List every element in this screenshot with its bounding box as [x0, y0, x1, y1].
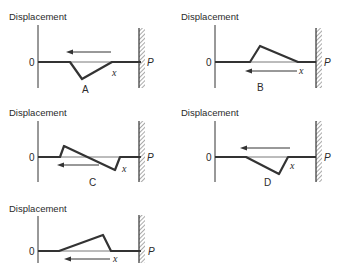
- zero-label: 0: [206, 152, 212, 163]
- wall-label: P: [147, 152, 154, 163]
- pulse-shape: [215, 46, 316, 62]
- panel-b: Displacement 0 P x B: [181, 11, 331, 93]
- panel-a: Displacement 0 P x A: [9, 11, 154, 95]
- wall-label: P: [148, 246, 155, 257]
- wall-label: P: [324, 152, 331, 163]
- zero-label: 0: [206, 57, 212, 68]
- position-label: x: [112, 253, 118, 263]
- wall-label: P: [324, 57, 331, 68]
- y-axis-label: Displacement: [181, 11, 239, 22]
- panel-caption: A: [82, 84, 89, 95]
- panel-caption: C: [89, 177, 96, 188]
- y-axis-label: Displacement: [181, 107, 239, 118]
- position-label: x: [121, 163, 127, 174]
- zero-label: 0: [29, 152, 35, 163]
- pulse-reflection-diagram: Displacement 0 P x A Displacement 0 P x …: [0, 0, 348, 263]
- wall-hatch: [316, 28, 322, 88]
- wall-hatch: [139, 121, 145, 182]
- arrow-left-icon: [240, 146, 247, 151]
- y-axis-label: Displacement: [9, 203, 67, 214]
- arrow-left-icon: [57, 163, 64, 168]
- wall-hatch: [316, 121, 322, 182]
- position-label: x: [298, 65, 304, 76]
- panel-e: Displacement 0 P x: [9, 203, 155, 263]
- panel-c: Displacement 0 P x C: [9, 107, 154, 188]
- position-label: x: [289, 160, 295, 171]
- panel-caption: B: [257, 82, 264, 93]
- panel-caption: D: [264, 177, 271, 188]
- y-axis-label: Displacement: [9, 107, 67, 118]
- arrow-left-icon: [245, 69, 252, 74]
- position-label: x: [111, 67, 117, 78]
- y-axis-label: Displacement: [9, 11, 67, 22]
- arrow-left-icon: [66, 50, 73, 55]
- pulse-shape: [215, 157, 316, 174]
- wall-hatch: [139, 215, 145, 263]
- zero-label: 0: [29, 57, 35, 68]
- zero-label: 0: [29, 246, 35, 257]
- wall-hatch: [139, 28, 145, 88]
- wall-label: P: [147, 57, 154, 68]
- panel-d: Displacement 0 P x D: [181, 107, 331, 188]
- pulse-shape: [38, 235, 141, 251]
- pulse-shape: [38, 62, 141, 79]
- arrow-left-icon: [64, 257, 71, 262]
